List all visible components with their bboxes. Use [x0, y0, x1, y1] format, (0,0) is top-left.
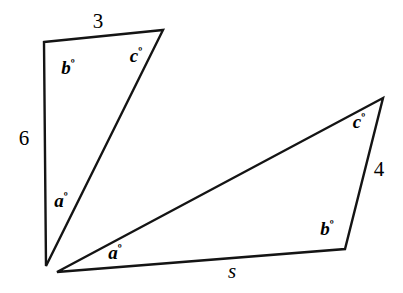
degree-symbol-icon: º — [361, 110, 365, 124]
degree-symbol-icon: º — [138, 44, 142, 58]
left-triangle-side-label-left: 6 — [19, 128, 30, 149]
right-triangle-side-label-bottom: s — [228, 261, 236, 282]
degree-symbol-icon: º — [71, 56, 75, 70]
left-triangle-side-label-top: 3 — [93, 11, 104, 32]
angle-letter-a: a — [108, 242, 118, 263]
angle-letter-a: a — [54, 190, 64, 211]
right-triangle-angle-label-b: bº — [320, 218, 333, 238]
triangles-drawing — [0, 0, 403, 293]
geometry-figure: 3 6 bº cº aº s 4 aº cº bº — [0, 0, 403, 293]
angle-letter-b: b — [320, 218, 330, 239]
angle-letter-b: b — [61, 57, 71, 78]
right-triangle-side-label-right: 4 — [374, 159, 385, 180]
left-triangle-angle-label-a: aº — [54, 190, 67, 210]
degree-symbol-icon: º — [64, 189, 68, 203]
degree-symbol-icon: º — [330, 217, 334, 231]
left-triangle-angle-label-b: bº — [61, 57, 74, 77]
right-triangle-outline — [57, 98, 383, 272]
degree-symbol-icon: º — [118, 241, 122, 255]
left-triangle-angle-label-c: cº — [130, 45, 142, 65]
right-triangle-angle-label-c: cº — [353, 111, 365, 131]
right-triangle-angle-label-a: aº — [108, 242, 121, 262]
